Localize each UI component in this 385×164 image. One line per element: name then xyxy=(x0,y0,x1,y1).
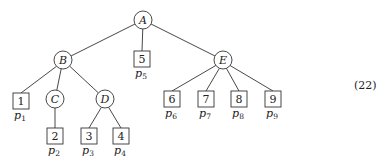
leaf-node-9: 9p9 xyxy=(265,91,281,121)
node-label: D xyxy=(100,93,110,106)
probability-label: p6 xyxy=(165,107,177,121)
edge-B-1 xyxy=(21,66,57,93)
leaf-label: 1 xyxy=(18,95,25,108)
probability-label: p4 xyxy=(114,144,126,158)
edge-D-3 xyxy=(89,107,101,128)
leaf-label: 7 xyxy=(203,93,210,106)
leaf-label: 5 xyxy=(139,53,146,66)
node-label: A xyxy=(138,14,147,27)
leaf-node-6: 6p6 xyxy=(164,91,180,121)
internal-node-C: C xyxy=(46,90,64,108)
probability-label: p2 xyxy=(48,144,60,158)
node-label: E xyxy=(218,54,227,67)
edge-B-D xyxy=(70,66,99,93)
leaf-label: 4 xyxy=(118,130,125,143)
probability-label: p8 xyxy=(232,107,244,121)
leaf-node-2: 2p2 xyxy=(47,128,63,158)
leaf-node-3: 3p3 xyxy=(81,128,97,158)
probability-label: p9 xyxy=(266,107,278,121)
leaf-node-7: 7p7 xyxy=(198,91,214,121)
internal-node-A: A xyxy=(134,11,152,29)
leaf-label: 8 xyxy=(236,93,243,106)
leaf-label: 9 xyxy=(270,93,277,106)
probability-label: p1 xyxy=(14,109,26,123)
equation-number: (22) xyxy=(354,79,377,92)
probability-label: p7 xyxy=(199,107,211,121)
node-label: B xyxy=(58,54,67,67)
probability-label: p3 xyxy=(82,144,94,158)
node-label: C xyxy=(51,93,60,106)
edge-B-C xyxy=(57,69,61,90)
edge-A-B xyxy=(71,24,135,56)
internal-node-E: E xyxy=(214,51,232,69)
edge-E-8 xyxy=(226,68,239,91)
internal-node-D: D xyxy=(96,90,114,108)
edge-E-6 xyxy=(172,65,216,91)
edge-E-7 xyxy=(206,68,219,91)
internal-node-B: B xyxy=(54,51,72,69)
edge-A-5 xyxy=(142,29,143,51)
leaf-node-1: 1p1 xyxy=(13,93,29,123)
tree-diagram: ABCDE1p12p23p34p45p56p67p78p89p9 xyxy=(0,0,385,164)
tree-nodes: ABCDE1p12p23p34p45p56p67p78p89p9 xyxy=(13,11,281,158)
edge-D-4 xyxy=(109,107,121,128)
leaf-label: 6 xyxy=(169,93,176,106)
edge-A-E xyxy=(151,24,215,56)
leaf-label: 3 xyxy=(86,130,93,143)
leaf-node-4: 4p4 xyxy=(113,128,129,158)
probability-label: p5 xyxy=(135,67,147,81)
leaf-node-5: 5p5 xyxy=(134,51,150,81)
leaf-node-8: 8p8 xyxy=(231,91,247,121)
leaf-label: 2 xyxy=(52,130,59,143)
